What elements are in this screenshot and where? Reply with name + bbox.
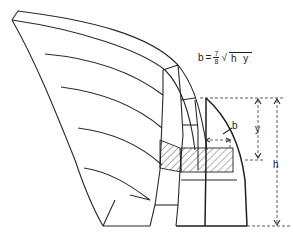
formula-fraction: 7 8 [213, 50, 219, 65]
sqrt-icon: √ [221, 52, 227, 63]
label-b: b [232, 120, 238, 131]
formula-numerator: 7 [214, 50, 218, 57]
transverse-lines [45, 54, 163, 200]
formula: b = 7 8 √ h y [198, 50, 252, 65]
formula-lhs: b [198, 52, 204, 63]
wing-outline [12, 11, 207, 226]
inner-strips [103, 65, 198, 226]
hatched-sections [160, 140, 233, 172]
curved-section-diagram: b y h [0, 0, 293, 233]
formula-equals: = [206, 52, 212, 63]
formula-denominator: 8 [214, 58, 218, 65]
formula-radicand: h y [229, 52, 252, 64]
label-h: h [273, 159, 279, 170]
label-y: y [255, 123, 260, 134]
